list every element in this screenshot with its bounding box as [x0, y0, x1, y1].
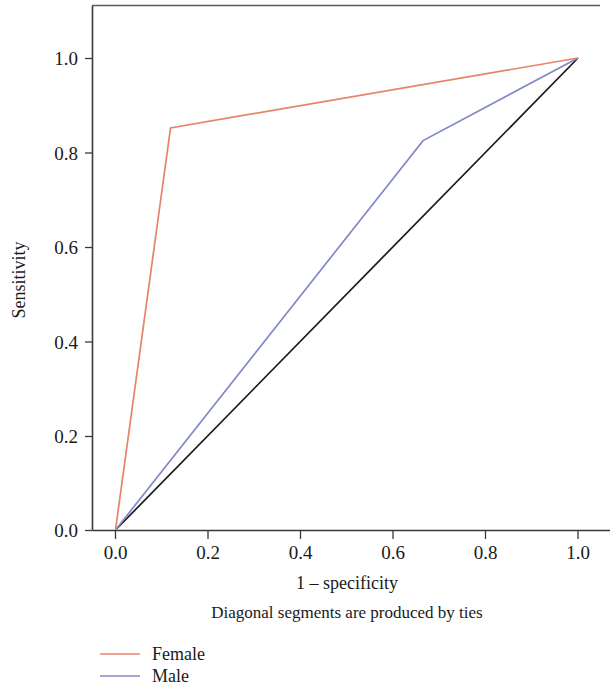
- x-tick-label-1: 0.2: [196, 542, 220, 563]
- x-axis-ticks: [116, 531, 579, 540]
- x-tick-label-3: 0.6: [381, 542, 405, 563]
- chart-legend: Female Male: [100, 644, 205, 686]
- x-axis-tick-labels: 0.0 0.2 0.4 0.6 0.8 1.0: [104, 542, 590, 563]
- y-tick-label-3: 0.6: [54, 237, 78, 258]
- y-tick-label-4: 0.8: [54, 143, 78, 164]
- x-tick-label-0: 0.0: [104, 542, 128, 563]
- roc-curve-figure: 0.0 0.2 0.4 0.6 0.8 1.0 0.0 0.2 0.4 0.6 …: [0, 0, 610, 689]
- legend-label-male: Male: [152, 666, 189, 686]
- y-axis-title: Sensitivity: [9, 241, 29, 318]
- roc-plot-svg: 0.0 0.2 0.4 0.6 0.8 1.0 0.0 0.2 0.4 0.6 …: [0, 0, 610, 689]
- chart-caption: Diagonal segments are produced by ties: [211, 603, 482, 622]
- y-tick-label-0: 0.0: [54, 520, 78, 541]
- x-tick-label-4: 0.8: [474, 542, 498, 563]
- y-tick-label-2: 0.4: [54, 332, 78, 353]
- x-tick-label-2: 0.4: [289, 542, 313, 563]
- legend-label-female: Female: [152, 644, 205, 664]
- y-axis-ticks: [85, 59, 93, 531]
- y-axis-tick-labels: 0.0 0.2 0.4 0.6 0.8 1.0: [54, 48, 78, 541]
- x-axis-title: 1 – specificity: [296, 573, 398, 593]
- y-tick-label-5: 1.0: [54, 48, 78, 69]
- x-tick-label-5: 1.0: [566, 542, 590, 563]
- y-tick-label-1: 0.2: [54, 426, 78, 447]
- series-line-reference: [116, 58, 579, 530]
